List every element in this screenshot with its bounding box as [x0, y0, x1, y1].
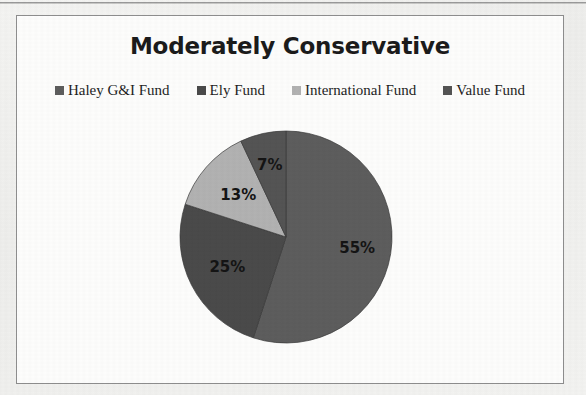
pie-slices	[180, 131, 392, 343]
pie-label-international-fund: 13%	[220, 186, 256, 204]
chart-frame: Moderately Conservative Haley G&I Fund E…	[16, 15, 564, 384]
pie-chart[interactable]: 55% 25% 13% 7%	[178, 129, 394, 345]
pie-label-haley-gi-fund: 55%	[339, 239, 375, 257]
pie-chart-area: 55% 25% 13% 7%	[17, 16, 563, 383]
scanned-page: Moderately Conservative Haley G&I Fund E…	[0, 0, 586, 395]
pie-label-ely-fund: 25%	[209, 258, 245, 276]
pie-label-value-fund: 7%	[257, 156, 282, 174]
scan-edge-line-soft	[0, 3, 586, 4]
